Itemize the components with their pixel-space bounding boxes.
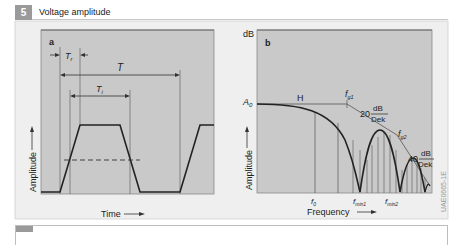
slope2-value: 40 — [408, 154, 418, 164]
panel-b-y-axis-label: Amplitude — [244, 150, 254, 190]
slope2-unit-den: Dek — [418, 160, 433, 169]
slope1-value: 20 — [360, 109, 370, 119]
panel-a-x-axis-label: Time — [101, 209, 121, 219]
panel-b-frequency-domain — [257, 30, 432, 193]
voltage-amplitude-diagram: a Tr T Ti Amplitude Time — [0, 0, 456, 245]
next-figure-header — [15, 225, 448, 245]
panel-b-label: b — [265, 38, 271, 48]
panel-b-y-unit: dB — [243, 29, 254, 39]
panel-a-y-axis-label: Amplitude — [28, 152, 38, 192]
figure-code: UAE0665-1E — [440, 171, 447, 212]
slope1-unit-num: dB — [373, 104, 383, 113]
slope2-unit-num: dB — [421, 149, 431, 158]
next-figure-badge — [16, 226, 33, 232]
h-label: H — [297, 93, 304, 103]
slope1-unit-den: Dek — [371, 115, 386, 124]
period-label: T — [117, 62, 124, 73]
panel-b-x-axis-label: Frequency — [307, 207, 350, 217]
